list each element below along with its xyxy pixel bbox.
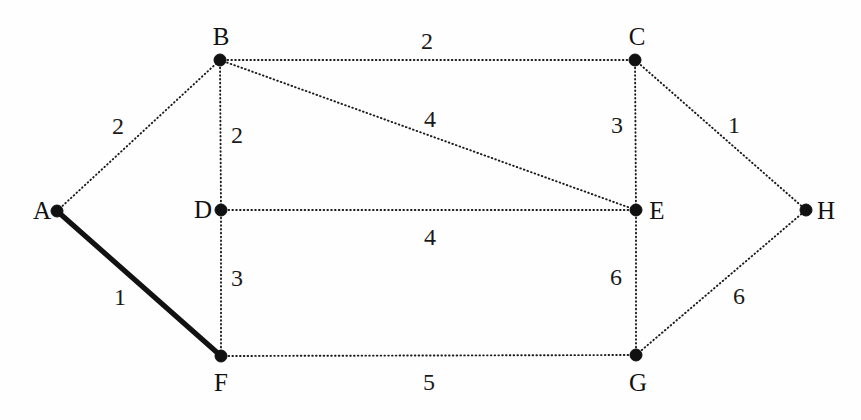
edge-a-f [57,211,221,356]
graph-diagram: 212243143656ABCDEFGH [0,0,861,420]
edge-b-e [220,60,636,210]
edge-weight-d-f: 3 [231,266,243,290]
node-dot-e[interactable] [630,204,642,216]
edge-weight-b-e: 4 [424,107,436,131]
edge-weight-e-g: 6 [610,265,622,289]
node-dot-d[interactable] [215,204,227,216]
edge-weight-g-h: 6 [733,284,745,308]
node-label-a: A [33,198,51,223]
edge-weight-c-h: 1 [728,113,740,137]
edge-weight-c-e: 3 [611,113,623,137]
node-dot-b[interactable] [214,54,226,66]
edge-weight-a-b: 2 [112,114,124,138]
edge-c-h [635,60,806,210]
node-label-e: E [649,198,664,223]
edge-f-g [221,355,636,356]
edge-a-b [57,60,220,211]
edge-g-h [636,210,806,355]
edges-layer [57,60,806,356]
edge-b-d [220,60,221,210]
edge-weight-b-c: 2 [421,29,433,53]
node-label-f: F [214,370,228,395]
edge-weight-f-g: 5 [423,370,435,394]
node-label-g: G [629,370,647,395]
edge-weight-b-d: 2 [231,123,243,147]
node-label-h: H [817,198,835,223]
graph-canvas [0,0,861,420]
node-dot-h[interactable] [800,204,812,216]
nodes-layer [51,54,812,362]
edge-c-e [635,60,636,210]
edge-weight-a-f: 1 [114,285,126,309]
node-dot-f[interactable] [215,350,227,362]
node-dot-a[interactable] [51,205,63,217]
edge-weight-d-e: 4 [424,225,436,249]
node-label-d: D [194,197,212,222]
node-dot-g[interactable] [630,349,642,361]
node-label-b: B [213,24,230,49]
node-label-c: C [629,24,646,49]
node-dot-c[interactable] [629,54,641,66]
